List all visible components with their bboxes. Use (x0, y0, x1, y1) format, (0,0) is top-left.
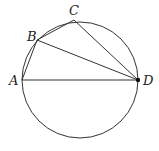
geometry-diagram: A B C D (0, 0, 159, 151)
point-d-marker (136, 78, 140, 82)
segment-ab (22, 40, 37, 80)
segment-cd (74, 20, 138, 80)
segment-bd (37, 40, 138, 80)
label-a: A (8, 73, 18, 88)
label-b: B (26, 29, 37, 44)
label-d: D (142, 73, 154, 88)
label-c: C (69, 3, 79, 18)
segment-bc (37, 20, 74, 40)
